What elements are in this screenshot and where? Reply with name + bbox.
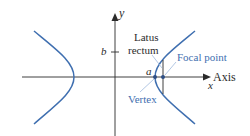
axis-label: Axis [213,71,236,83]
hyperbola-right-branch [155,31,195,124]
focal-point-marker [161,75,165,79]
vertex-leader [140,79,154,92]
x-axis-variable-label: x [208,80,213,91]
a-label: a [146,66,152,77]
diagram-canvas [0,0,250,136]
focal-point-leader [165,62,176,75]
vertex-point [153,75,157,79]
vertex-label: Vertex [128,94,157,105]
hyperbola-left-branch [34,31,74,124]
hyperbola-diagram: y b Latus rectum Focal point a Axis x Ve… [0,0,250,136]
latus-rectum-label-line2: rectum [128,45,159,56]
latus-rectum-label-line1: Latus [134,32,158,43]
y-axis-arrow-icon [112,13,119,21]
focal-point-label: Focal point [177,52,227,63]
y-axis-label: y [119,7,124,19]
b-tick-label: b [101,46,107,57]
